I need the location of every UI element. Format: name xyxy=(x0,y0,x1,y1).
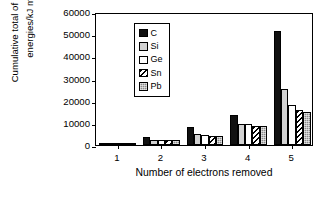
y-axis-tick xyxy=(92,147,96,148)
bar-si-group-3 xyxy=(194,134,201,145)
bar-group xyxy=(227,14,271,145)
bar-c-group-1 xyxy=(99,143,106,145)
y-axis-tick-label: 30000 xyxy=(44,75,90,85)
y-axis-title-line2-text: energies/kJ mol xyxy=(25,0,36,58)
bar-pb-group-1 xyxy=(129,143,136,145)
y-axis-tick-label: 10000 xyxy=(44,119,90,129)
y-axis-title-line2: energies/kJ mol-1 xyxy=(21,0,37,58)
bar-sn-group-5 xyxy=(296,110,303,145)
x-axis-tick xyxy=(161,145,162,149)
x-axis-tick xyxy=(205,145,206,149)
bar-si-group-5 xyxy=(281,89,288,145)
bar-c-group-4 xyxy=(230,115,237,145)
bar-group xyxy=(183,14,227,145)
bar-ge-group-4 xyxy=(245,124,252,145)
x-axis-title: Number of electrons removed xyxy=(95,167,313,178)
bar-c-group-5 xyxy=(274,31,281,145)
bar-sn-group-4 xyxy=(252,126,259,145)
bar-ge-group-3 xyxy=(201,135,208,145)
bar-c-group-2 xyxy=(143,137,150,145)
bar-pb-group-5 xyxy=(303,112,310,145)
bar-c-group-3 xyxy=(187,127,194,145)
bar-pb-group-2 xyxy=(172,140,179,145)
y-axis-tick-label: 60000 xyxy=(44,8,90,18)
x-axis-tick-label: 5 xyxy=(276,152,306,163)
bar-si-group-4 xyxy=(238,124,245,145)
bar-ge-group-5 xyxy=(288,105,295,145)
bar-si-group-1 xyxy=(107,143,114,145)
x-axis-tick-label: 4 xyxy=(233,152,263,163)
y-axis-tick-labels: 0100002000030000400005000060000 xyxy=(42,0,90,197)
x-axis-tick-label: 1 xyxy=(102,152,132,163)
x-axis-tick-label: 3 xyxy=(189,152,219,163)
y-axis-tick-label: 40000 xyxy=(44,52,90,62)
x-axis-tick xyxy=(118,145,119,149)
bar-pb-group-4 xyxy=(260,126,267,145)
y-axis-title-line1: Cumulative total of ionization xyxy=(9,0,22,82)
y-axis-title: Cumulative total of ionization energies/… xyxy=(3,0,43,96)
bar-sn-group-2 xyxy=(165,140,172,145)
bar-group xyxy=(96,14,140,145)
y-axis-tick-label: 20000 xyxy=(44,97,90,107)
y-axis-tick-label: 0 xyxy=(44,141,90,151)
plot-area: CSiGeSnPb xyxy=(95,13,313,146)
x-axis-tick xyxy=(292,145,293,149)
bar-group xyxy=(140,14,184,145)
bar-si-group-2 xyxy=(150,140,157,145)
bar-sn-group-1 xyxy=(121,143,128,145)
ionization-energy-bar-chart: Cumulative total of ionization energies/… xyxy=(0,0,333,197)
y-axis-tick-label: 50000 xyxy=(44,30,90,40)
bar-group xyxy=(270,14,314,145)
x-axis-tick xyxy=(249,145,250,149)
bar-pb-group-3 xyxy=(216,136,223,145)
bar-sn-group-3 xyxy=(209,136,216,145)
x-axis-tick-label: 2 xyxy=(145,152,175,163)
